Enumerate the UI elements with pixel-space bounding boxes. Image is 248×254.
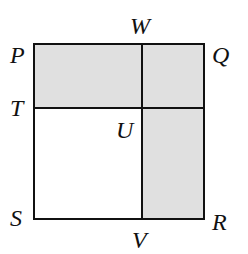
point-label-q: Q <box>212 42 229 68</box>
shaded-top-band <box>34 44 204 108</box>
shaded-right-column <box>142 108 204 219</box>
point-label-s: S <box>10 205 22 231</box>
point-label-p: P <box>9 42 25 68</box>
point-label-w: W <box>130 13 152 39</box>
geometry-diagram: P W Q T U S V R <box>0 0 248 254</box>
point-label-t: T <box>10 95 25 121</box>
point-label-u: U <box>116 117 135 143</box>
point-label-r: R <box>211 209 227 235</box>
point-label-v: V <box>132 227 149 253</box>
